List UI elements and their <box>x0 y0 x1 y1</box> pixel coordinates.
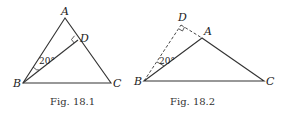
label-b: B <box>133 75 142 88</box>
right-angle-mark <box>179 27 185 31</box>
angle-arc <box>33 67 39 70</box>
caption: Fig. 18.1 <box>50 96 95 107</box>
label-c: C <box>113 77 122 90</box>
label-d: D <box>79 32 89 45</box>
segment-bd-dashed <box>144 25 181 81</box>
angle-label: 20° <box>39 56 55 66</box>
right-angle-mark <box>72 36 75 43</box>
figure-18-2: 20° D A B C Fig. 18.2 <box>133 11 275 107</box>
caption: Fig. 18.2 <box>170 96 215 107</box>
label-c: C <box>266 75 275 88</box>
label-a: A <box>203 25 212 38</box>
label-a: A <box>60 5 69 18</box>
angle-label: 20° <box>159 56 175 66</box>
label-b: B <box>12 77 21 90</box>
figure-18-1: 20° A B C D Fig. 18.1 <box>12 5 122 107</box>
label-d: D <box>177 11 187 24</box>
figures-canvas: 20° A B C D Fig. 18.1 20° D A B C Fig. 1… <box>0 0 286 113</box>
